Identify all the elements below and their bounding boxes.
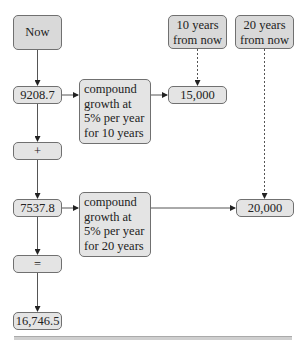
growth-20-line3: 5% per year bbox=[84, 224, 146, 239]
future-value-1: 15,000 bbox=[180, 88, 214, 103]
growth-20-line2: growth at bbox=[84, 210, 146, 225]
twenty-years-box: 20 years from now bbox=[235, 15, 294, 49]
ten-years-line2: from now bbox=[172, 33, 223, 48]
twenty-years-line1: 20 years bbox=[239, 18, 290, 33]
ten-years-line1: 10 years bbox=[172, 18, 223, 33]
present-value-2: 7537.8 bbox=[20, 201, 54, 216]
growth-10-line1: compound bbox=[84, 82, 146, 97]
present-value-2-box: 7537.8 bbox=[13, 199, 62, 217]
present-value-1-box: 9208.7 bbox=[13, 86, 62, 104]
bottom-divider bbox=[14, 336, 292, 340]
plus-sign: + bbox=[34, 144, 41, 159]
future-value-2-box: 20,000 bbox=[236, 199, 294, 217]
future-value-2: 20,000 bbox=[248, 201, 282, 216]
future-value-1-box: 15,000 bbox=[168, 86, 227, 104]
total-value: 16,746.5 bbox=[16, 314, 60, 329]
growth-10-line3: 5% per year bbox=[84, 111, 146, 126]
equals-box: = bbox=[13, 255, 62, 273]
now-label: Now bbox=[25, 25, 49, 40]
growth-10-box: compound growth at 5% per year for 10 ye… bbox=[79, 79, 151, 144]
connector-lines bbox=[0, 0, 305, 340]
total-box: 16,746.5 bbox=[13, 312, 62, 330]
ten-years-box: 10 years from now bbox=[168, 15, 227, 49]
growth-20-box: compound growth at 5% per year for 20 ye… bbox=[79, 192, 151, 257]
plus-box: + bbox=[13, 142, 62, 160]
now-box: Now bbox=[13, 15, 62, 50]
present-value-1: 9208.7 bbox=[20, 88, 54, 103]
growth-10-line4: for 10 years bbox=[84, 126, 146, 141]
equals-sign: = bbox=[34, 257, 41, 272]
growth-20-line1: compound bbox=[84, 195, 146, 210]
growth-10-line2: growth at bbox=[84, 97, 146, 112]
growth-20-line4: for 20 years bbox=[84, 239, 146, 254]
twenty-years-line2: from now bbox=[239, 33, 290, 48]
